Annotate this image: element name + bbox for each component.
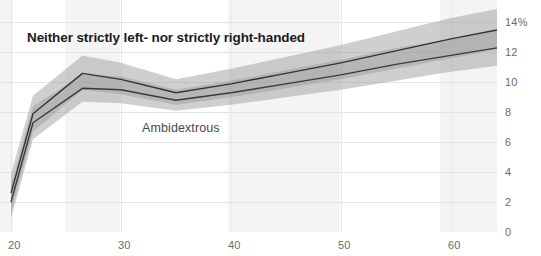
y-tick-label-6: 6 [505, 137, 511, 148]
y-tick-label-10: 10 [505, 77, 518, 88]
y-tick-label-4: 4 [505, 167, 511, 178]
x-tick-label-20: 20 [8, 240, 21, 251]
annotation-neither-strictly-handed: Neither strictly left- nor strictly righ… [27, 31, 305, 45]
line-chart: Neither strictly left- nor strictly righ… [0, 0, 541, 256]
x-tick-label-60: 60 [448, 240, 461, 251]
y-tick-label-0: 0 [505, 227, 511, 238]
x-tick-label-50: 50 [338, 240, 351, 251]
plot-area: Neither strictly left- nor strictly righ… [0, 0, 497, 232]
y-tick-label-12: 12 [505, 47, 518, 58]
annotation-ambidextrous: Ambidextrous [142, 122, 220, 135]
x-tick-label-40: 40 [228, 240, 241, 251]
y-tick-label-8: 8 [505, 107, 511, 118]
y-tick-label-2: 2 [505, 197, 511, 208]
y-tick-label-14: 14% [505, 17, 528, 28]
x-tick-label-30: 30 [118, 240, 131, 251]
